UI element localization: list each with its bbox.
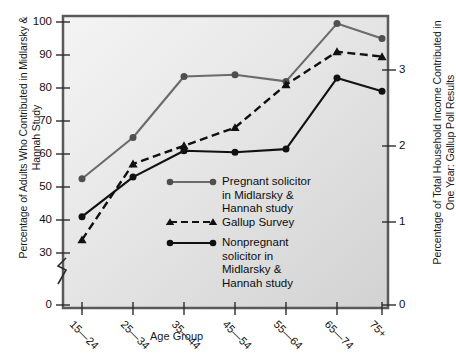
legend-label-nonpregnant: Nonpregnant solicitor in Midlarsky & Han… [222,236,293,290]
data-point [79,213,86,220]
y2tick-label: 3 [399,63,419,75]
data-point [181,73,188,80]
data-point [79,175,86,182]
y-axis-title-right: Percentage of Total Household Income Con… [431,18,456,268]
data-point [379,35,386,42]
data-point [283,146,290,153]
legend-label-pregnant: Pregnant solicitor in Midlarsky & Hannah… [222,175,311,216]
data-point [130,134,137,141]
legend-label-gallup: Gallup Survey [222,216,294,230]
data-point [334,20,341,27]
data-point [379,88,386,95]
data-point [334,75,341,82]
y2tick-label: 1 [399,215,419,227]
y2tick-label: 2 [399,139,419,151]
ytick-label: 0 [22,298,52,310]
x-axis-title: Age Group [150,330,203,342]
y2tick-label: 0 [399,298,419,310]
y-axis-title-left: Percentage of Adults Who Contributed in … [17,13,42,263]
data-point [232,71,239,78]
data-point [181,147,188,154]
data-point [130,174,137,181]
data-point [232,149,239,156]
